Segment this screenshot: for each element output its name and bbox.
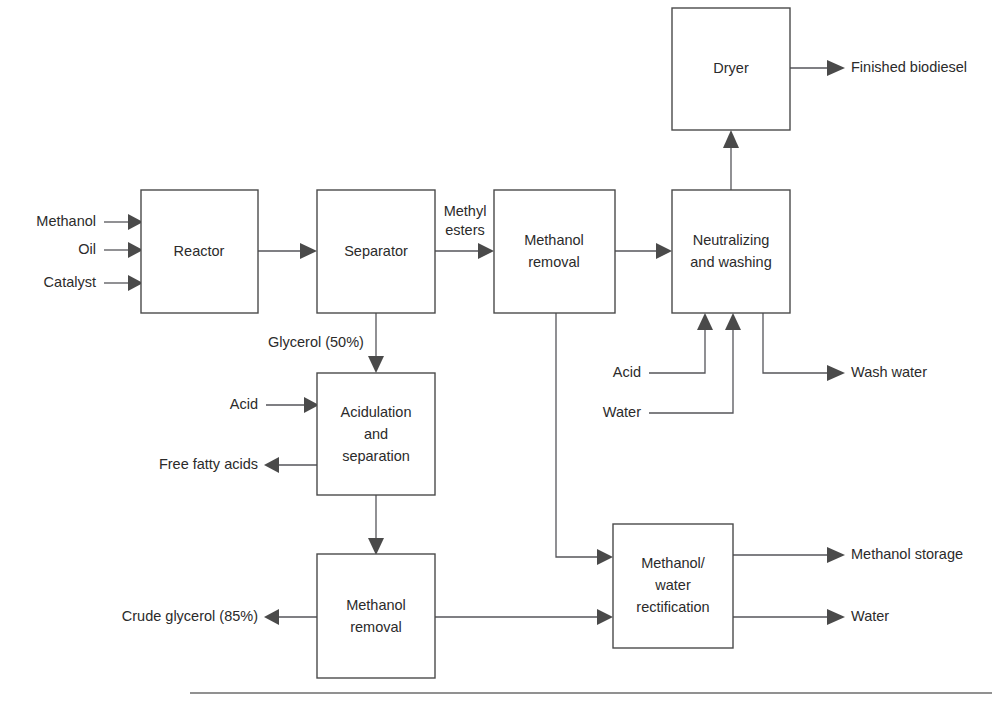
box-label-dryer: Dryer (713, 60, 749, 76)
box-outline-methanol-removal-bottom (317, 554, 435, 678)
box-label-neutralizing-line2: and washing (690, 254, 771, 270)
box-label-acidulation-line1: Acidulation (341, 404, 412, 420)
process-box-separator[interactable]: Separator (317, 190, 435, 313)
arrow-head-free-fatty-acids (264, 457, 279, 473)
stream-label-crude-glycerol-85: Crude glycerol (85%) (122, 608, 258, 624)
arrow-head-to-methanol-removal-top (478, 243, 494, 259)
arrow-head-to-dryer (723, 130, 739, 148)
stream-label-catalyst-in: Catalyst (44, 274, 96, 290)
box-label-acidulation-line2: and (364, 426, 388, 442)
process-box-methanol-water-rectification[interactable]: Methanol/ water rectification (613, 524, 733, 648)
stream-label-methyl-esters-line2: esters (445, 222, 485, 238)
arrow-head-crude-glycerol (264, 609, 279, 625)
line-methanol-removal-top-to-rectification (556, 313, 597, 557)
arrow-head-wash-water (827, 365, 845, 381)
box-label-methanol-removal-top-line1: Methanol (524, 232, 584, 248)
arrow-head-acid-to-neutralizing (697, 313, 713, 330)
box-label-neutralizing-line1: Neutralizing (693, 232, 770, 248)
box-outline-methanol-removal-top (494, 190, 615, 313)
stream-label-methanol-storage: Methanol storage (851, 546, 963, 562)
arrow-head-to-methanol-removal-bottom (368, 538, 384, 555)
arrow-head-water-to-neutralizing (725, 313, 741, 330)
arrow-head-finished-biodiesel (827, 60, 845, 76)
stream-label-water-out: Water (851, 608, 889, 624)
process-box-dryer[interactable]: Dryer (672, 8, 790, 130)
stream-label-water-neutralizing: Water (603, 404, 641, 420)
box-label-methanol-removal-top-line2: removal (528, 254, 580, 270)
stream-label-methanol-in: Methanol (36, 213, 96, 229)
box-label-acidulation-line3: separation (342, 448, 410, 464)
stream-labels: Methanol Oil Catalyst Methyl esters Fini… (36, 59, 967, 624)
box-outline-neutralizing-washing (672, 190, 790, 313)
process-flow-diagram: Dryer Reactor Separator Methanol removal… (0, 0, 992, 703)
arrow-head-to-acidulation (368, 356, 384, 373)
arrow-head-water-out (827, 609, 845, 625)
process-box-acidulation-separation[interactable]: Acidulation and separation (317, 373, 435, 495)
box-label-methanol-removal-bottom-line1: Methanol (346, 597, 406, 613)
box-label-methanol-removal-bottom-line2: removal (350, 619, 402, 635)
process-boxes: Dryer Reactor Separator Methanol removal… (141, 8, 790, 678)
line-water-to-neutralizing (649, 330, 733, 413)
stream-label-free-fatty-acids: Free fatty acids (159, 456, 258, 472)
process-box-methanol-removal-bottom[interactable]: Methanol removal (317, 554, 435, 678)
box-label-rectification-line1: Methanol/ (641, 555, 706, 571)
line-neutralizing-to-wash-water (763, 313, 827, 373)
stream-label-wash-water: Wash water (851, 364, 927, 380)
arrow-head-to-rectification-lower (597, 609, 613, 625)
arrow-head-methanol-storage (827, 547, 845, 563)
process-box-methanol-removal-top[interactable]: Methanol removal (494, 190, 615, 313)
process-box-neutralizing-washing[interactable]: Neutralizing and washing (672, 190, 790, 313)
stream-label-finished-biodiesel: Finished biodiesel (851, 59, 967, 75)
stream-label-oil-in: Oil (78, 241, 96, 257)
box-label-rectification-line2: water (654, 577, 691, 593)
stream-label-glycerol-50: Glycerol (50%) (268, 334, 364, 350)
stream-label-acid-acidulation: Acid (230, 396, 258, 412)
arrow-head-to-neutralizing (656, 243, 672, 259)
stream-label-acid-neutralizing: Acid (613, 364, 641, 380)
arrow-head-to-separator (300, 243, 317, 259)
arrow-head-to-rectification-upper (597, 549, 613, 565)
box-label-rectification-line3: rectification (636, 599, 709, 615)
line-acid-to-neutralizing (649, 330, 705, 373)
flow-arrowheads (128, 60, 845, 625)
stream-label-methyl-esters-line1: Methyl (444, 203, 487, 219)
flow-connectors (104, 68, 992, 693)
box-label-reactor: Reactor (174, 243, 225, 259)
box-label-separator: Separator (344, 243, 408, 259)
process-box-reactor[interactable]: Reactor (141, 190, 258, 313)
flow-diagram-canvas: Dryer Reactor Separator Methanol removal… (0, 0, 992, 703)
